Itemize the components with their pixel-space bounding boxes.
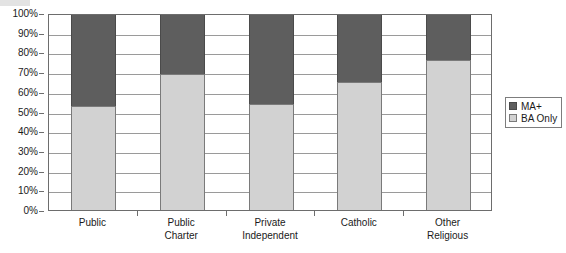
y-axis-tick-mark bbox=[39, 34, 44, 35]
bar-segment-ba-only bbox=[426, 60, 471, 210]
y-axis-tick-mark bbox=[39, 113, 44, 114]
plot-area bbox=[48, 14, 492, 211]
y-axis-tick-label: 40% bbox=[18, 127, 38, 137]
y-axis-tick-mark bbox=[39, 73, 44, 74]
legend-item-ba-only: BA Only bbox=[509, 112, 557, 124]
stacked-bar-chart: 100%90%80%70%60%50%40%30%20%10%0% Public… bbox=[0, 0, 566, 253]
x-axis-category-label: OtherReligious bbox=[393, 216, 503, 242]
bar-segment-ba-only bbox=[249, 104, 294, 210]
x-axis-category-line: Religious bbox=[393, 229, 503, 242]
bar-column bbox=[160, 15, 205, 210]
y-axis-tick-label: 20% bbox=[18, 167, 38, 177]
y-axis-tick-label: 10% bbox=[18, 186, 38, 196]
y-axis-tick-label: 50% bbox=[18, 108, 38, 118]
y-axis-tick-label: 100% bbox=[12, 9, 38, 19]
y-axis-tick-mark bbox=[39, 14, 44, 15]
bar-column bbox=[71, 15, 116, 210]
bar-segment-ba-only bbox=[337, 82, 382, 210]
legend-item-ma-plus: MA+ bbox=[509, 100, 557, 112]
y-axis-tick-label: 70% bbox=[18, 68, 38, 78]
bar-segment-ma-plus bbox=[71, 15, 116, 108]
y-axis-tick-mark bbox=[39, 191, 44, 192]
y-axis-tick-label: 60% bbox=[18, 88, 38, 98]
legend-item-label: BA Only bbox=[521, 113, 557, 124]
y-axis-tick-label: 30% bbox=[18, 147, 38, 157]
bar-segment-ba-only bbox=[160, 74, 205, 210]
bar-segment-ma-plus bbox=[426, 15, 471, 62]
legend-item-label: MA+ bbox=[521, 101, 542, 112]
bar-segment-ma-plus bbox=[160, 15, 205, 76]
y-axis-tick-mark bbox=[39, 172, 44, 173]
bar-segment-ma-plus bbox=[337, 15, 382, 84]
bar-column bbox=[426, 15, 471, 210]
y-axis-tick-label: 90% bbox=[18, 29, 38, 39]
y-axis: 100%90%80%70%60%50%40%30%20%10%0% bbox=[0, 14, 44, 211]
y-axis-tick-mark bbox=[39, 53, 44, 54]
bar-column bbox=[249, 15, 294, 210]
y-axis-tick-mark bbox=[39, 152, 44, 153]
x-axis-category-line: Other bbox=[393, 216, 503, 229]
y-axis-tick-mark bbox=[39, 211, 44, 212]
chart-legend: MA+ BA Only bbox=[505, 97, 562, 128]
x-axis-labels: PublicPublicCharterPrivateIndependentCat… bbox=[48, 216, 492, 252]
y-axis-tick-label: 80% bbox=[18, 48, 38, 58]
bar-segment-ma-plus bbox=[249, 15, 294, 106]
y-axis-tick-label: 0% bbox=[24, 206, 38, 216]
dark-gray-swatch-icon bbox=[509, 102, 517, 110]
light-gray-swatch-icon bbox=[509, 114, 517, 122]
x-axis-category-line: Independent bbox=[215, 229, 325, 242]
bar-segment-ba-only bbox=[71, 106, 116, 210]
y-axis-tick-mark bbox=[39, 132, 44, 133]
y-axis-tick-mark bbox=[39, 93, 44, 94]
bar-column bbox=[337, 15, 382, 210]
